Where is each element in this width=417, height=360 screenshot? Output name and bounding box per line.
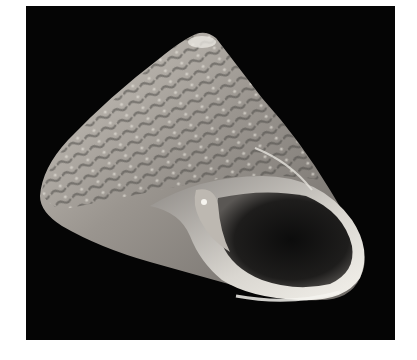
shell-illustration [0, 0, 417, 360]
columella-highlight [201, 199, 207, 205]
apex-highlight [188, 36, 216, 48]
